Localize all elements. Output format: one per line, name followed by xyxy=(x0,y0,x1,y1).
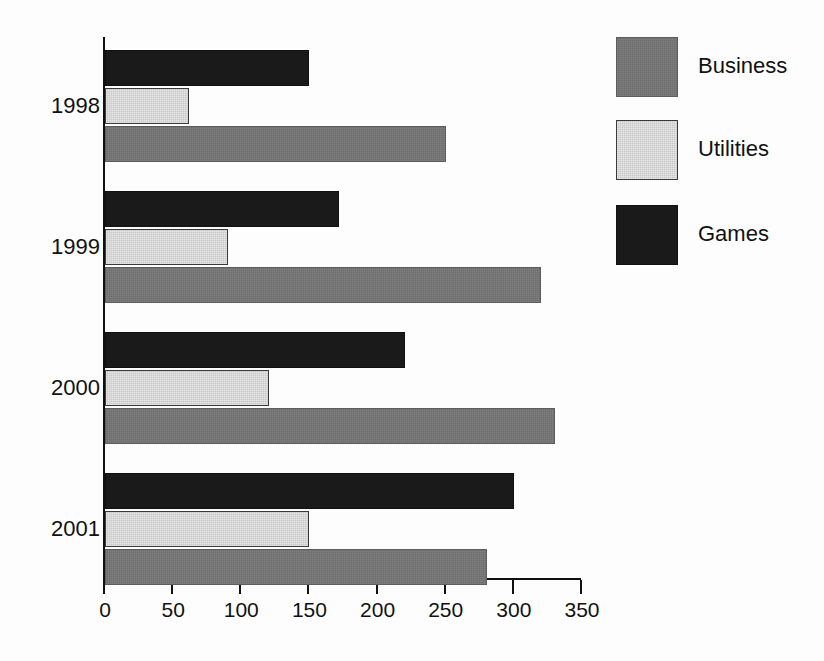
utilities-swatch-icon xyxy=(616,120,678,180)
bar-2001-games[interactable] xyxy=(105,473,514,509)
year-label-2001: 2001 xyxy=(20,516,100,542)
x-axis-tick-label: 300 xyxy=(484,597,544,623)
bar-1998-games[interactable] xyxy=(105,50,309,86)
x-axis-tick-label: 100 xyxy=(211,597,271,623)
year-label-1998: 1998 xyxy=(20,93,100,119)
legend-item-games[interactable]: Games xyxy=(616,205,816,267)
legend-label-utilities: Utilities xyxy=(698,135,769,163)
x-axis-tick-label: 350 xyxy=(552,597,612,623)
games-swatch-icon xyxy=(616,205,678,265)
bar-chart: 050100150200250300350 1998199920002001 B… xyxy=(0,0,824,661)
x-axis-tick-label: 250 xyxy=(416,597,476,623)
bar-1999-games[interactable] xyxy=(105,191,339,227)
legend-item-business[interactable]: Business xyxy=(616,37,816,99)
bar-1998-business[interactable] xyxy=(105,126,446,162)
bar-1998-utilities[interactable] xyxy=(105,88,189,124)
bar-1999-business[interactable] xyxy=(105,267,541,303)
bar-1999-utilities[interactable] xyxy=(105,229,228,265)
bar-2000-business[interactable] xyxy=(105,408,555,444)
legend-label-games: Games xyxy=(698,220,769,248)
bar-2000-utilities[interactable] xyxy=(105,370,269,406)
bar-2000-games[interactable] xyxy=(105,332,405,368)
legend-label-business: Business xyxy=(698,52,787,80)
legend-item-utilities[interactable]: Utilities xyxy=(616,120,816,182)
x-axis-tick-label: 150 xyxy=(279,597,339,623)
x-axis-tick-label: 50 xyxy=(143,597,203,623)
x-axis-tick-label: 0 xyxy=(75,597,135,623)
x-axis-tick xyxy=(512,580,514,594)
bar-2001-business[interactable] xyxy=(105,549,487,585)
business-swatch-icon xyxy=(616,37,678,97)
x-axis-tick xyxy=(580,580,582,594)
year-label-2000: 2000 xyxy=(20,375,100,401)
plot-area: 050100150200250300350 xyxy=(103,37,580,578)
x-axis-tick-label: 200 xyxy=(348,597,408,623)
bar-2001-utilities[interactable] xyxy=(105,511,309,547)
year-label-1999: 1999 xyxy=(20,234,100,260)
